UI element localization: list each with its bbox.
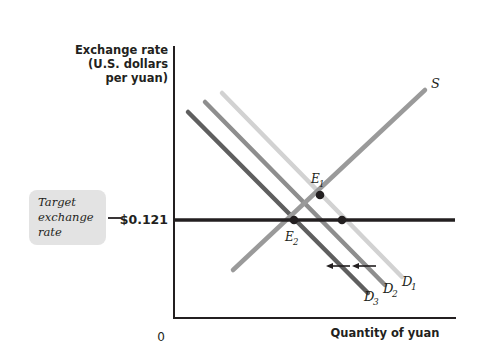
y-axis-label-line2: (U.S. dollars [88, 57, 168, 71]
origin-label: 0 [157, 330, 165, 344]
target-rate-tick-value: $0.121 [120, 212, 168, 227]
exchange-rate-diagram: Exchange rate (U.S. dollars per yuan) 0 … [0, 0, 492, 362]
supply-curve-label: S [431, 76, 440, 91]
demand-curve-label-d2-sub: 2 [391, 289, 398, 299]
demand-curve-label-d3-sub: 3 [373, 297, 379, 307]
equilibrium-point-e2 [290, 216, 299, 225]
figure-background [0, 0, 492, 362]
target-rate-callout-line3: rate [38, 225, 62, 239]
target-rate-callout-line1: Target [38, 195, 76, 209]
x-axis-label: Quantity of yuan [331, 326, 440, 340]
demand-curve-label-d1-sub: 1 [411, 282, 417, 292]
equilibrium-point-e1 [316, 191, 325, 200]
equilibrium-label-e2-sub: 2 [292, 237, 298, 247]
target-rate-callout-line2: exchange [38, 210, 94, 224]
y-axis-label-line3: per yuan) [105, 71, 168, 85]
intersection-point-d1-target [338, 216, 347, 225]
y-axis-label-line1: Exchange rate [75, 43, 168, 57]
equilibrium-label-e1-sub: 1 [319, 179, 324, 189]
